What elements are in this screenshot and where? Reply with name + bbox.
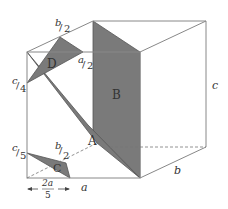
label-c: c (212, 79, 218, 92)
svg-text:2: 2 (87, 60, 93, 71)
label-c-quarter: c / 4 (12, 75, 26, 94)
label-C: C (53, 162, 61, 175)
svg-text:2: 2 (63, 150, 69, 161)
label-b-half-base: b / 2 (55, 140, 69, 161)
svg-text:2: 2 (64, 23, 70, 34)
svg-text:/: / (82, 59, 86, 70)
dimension-2a-5: 2a 5 (27, 178, 70, 200)
label-b-half-top: b / 2 (55, 17, 70, 34)
svg-text:5: 5 (20, 150, 26, 161)
label-b: b (174, 164, 181, 177)
svg-text:5: 5 (45, 190, 51, 200)
label-c-fifth: c / 5 (12, 142, 26, 161)
label-a-half: a / 2 (78, 54, 93, 71)
label-a: a (81, 181, 88, 194)
label-A: A (87, 134, 97, 148)
box-diagram: D B A C b / 2 a / 2 c / 4 c / 5 b / 2 c … (0, 0, 228, 209)
svg-text:2a: 2a (41, 178, 53, 188)
label-B: B (112, 88, 121, 102)
label-D: D (47, 57, 57, 71)
svg-text:/: / (59, 22, 63, 33)
svg-text:4: 4 (20, 83, 26, 94)
